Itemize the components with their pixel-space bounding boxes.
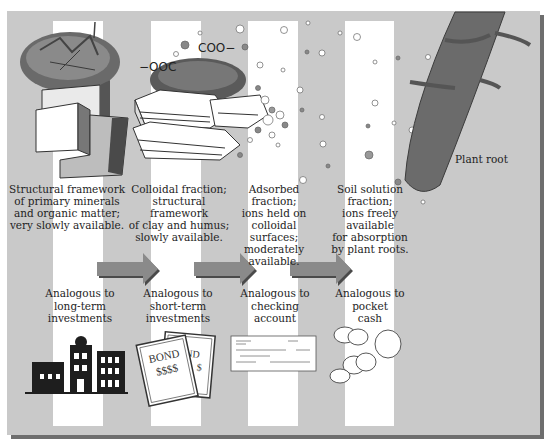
coins-icon — [330, 327, 401, 383]
bank-check-icon — [231, 336, 316, 371]
buildings-icon — [25, 336, 128, 394]
analogy-adsorbed: Analogous to checking account — [225, 287, 325, 325]
analogy-colloidal: Analogous to short-term investments — [128, 287, 228, 325]
plant-root-label: Plant root — [455, 153, 508, 165]
mineral-block-icon — [36, 80, 128, 178]
fraction-description-structural: Structural framework of primary minerals… — [2, 183, 132, 231]
analogy-structural: Analogous to long-term investments — [30, 287, 130, 325]
fraction-description-soil-solution: Soil solution fraction; ions freely avai… — [318, 183, 422, 255]
carboxylate-label: COO− — [198, 41, 235, 55]
analogy-soil-solution: Analogous to pocket cash — [320, 287, 420, 325]
arrow-1-icon — [97, 253, 160, 286]
svg-text:$: $ — [196, 362, 202, 373]
bond-certificate-icon: ND $ BOND $$$$ — [136, 332, 215, 406]
fraction-description-adsorbed: Adsorbed fraction; ions held on colloida… — [226, 183, 322, 267]
organic-matter-icon — [20, 22, 120, 92]
carboxylate-label-left: −OOC — [139, 60, 176, 74]
fraction-description-colloidal: Colloidal fraction; structural framework… — [126, 183, 232, 243]
